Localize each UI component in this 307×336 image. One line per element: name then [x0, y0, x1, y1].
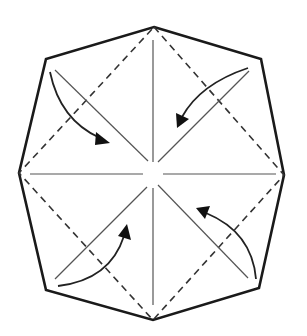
- arrow-top-left-icon: [50, 72, 100, 138]
- octagon-fold-diagram: [0, 0, 307, 336]
- crease-bottom-left: [55, 187, 147, 279]
- crease-top-right: [158, 71, 249, 162]
- arrowhead-top-left-icon: [95, 132, 110, 145]
- arrow-top-right-icon: [182, 68, 248, 117]
- arrow-bottom-right-icon: [206, 213, 256, 279]
- crease-lines: [30, 40, 276, 305]
- arrowhead-bottom-right-icon: [196, 206, 210, 219]
- arrowhead-bottom-left-icon: [118, 224, 131, 240]
